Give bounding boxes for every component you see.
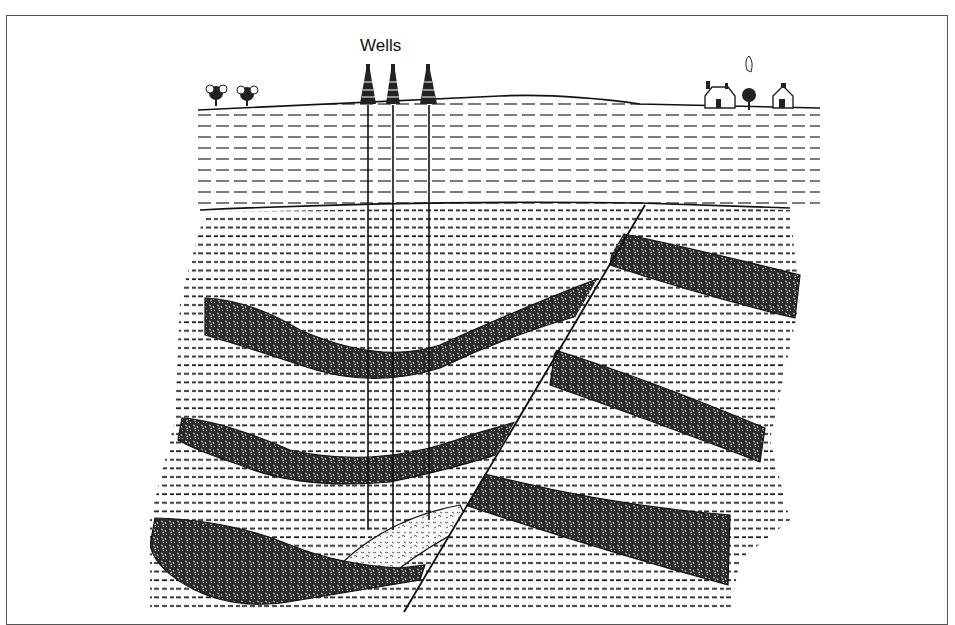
derrick-icon [360, 64, 376, 104]
diagram-title: Wells [360, 36, 401, 55]
houses-icon [705, 56, 793, 110]
derrick-icon [386, 64, 400, 104]
surface-sediment-layer [198, 95, 820, 210]
derrick-icon [420, 64, 437, 104]
trees-icon [206, 85, 258, 106]
